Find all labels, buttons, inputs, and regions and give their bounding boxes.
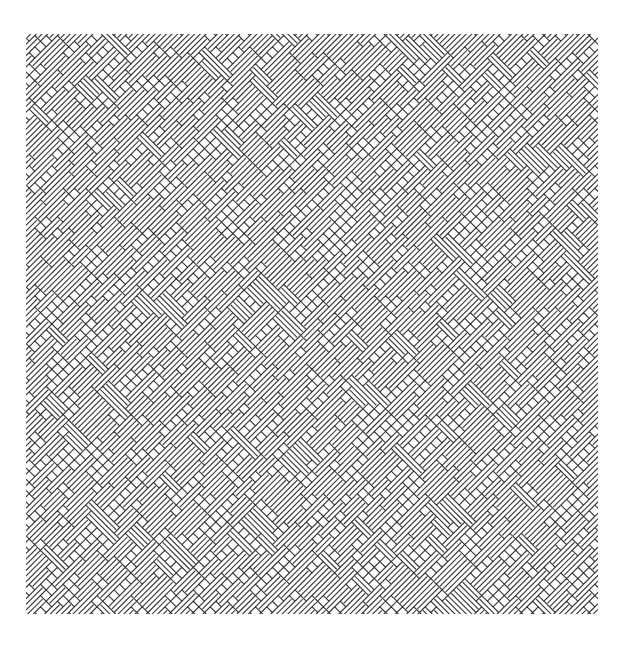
basket-weave-pattern [0, 0, 628, 650]
pattern-artwork [0, 0, 628, 650]
